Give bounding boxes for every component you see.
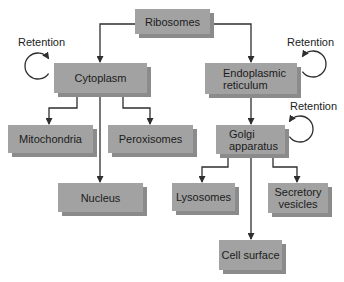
retention-loop-golgi-icon (289, 116, 313, 142)
node-label: Peroxisomes (119, 133, 183, 145)
arrow-ribosomes-to-cytoplasm (100, 24, 135, 62)
arrow-ribosomes-to-er (213, 24, 251, 62)
arrow-golgi-to-lysosomes (202, 157, 228, 182)
node-label: Lysosomes (176, 191, 231, 203)
retention-label-er: Retention (287, 36, 334, 48)
node-golgi-apparatus: Golgi apparatus (216, 125, 285, 154)
node-label: Ribosomes (145, 16, 200, 28)
node-label: Mitochondria (19, 133, 82, 145)
node-label: Secretory vesicles (274, 186, 321, 210)
node-nucleus: Nucleus (58, 183, 143, 212)
arrow-cytoplasm-to-mitochondria (49, 96, 77, 124)
node-cytoplasm: Cytoplasm (54, 63, 147, 93)
node-lysosomes: Lysosomes (172, 183, 235, 211)
node-cell-surface: Cell surface (219, 240, 282, 270)
node-label: Endoplasmic reticulum (223, 67, 286, 91)
retention-label-cytoplasm: Retention (18, 36, 65, 48)
arrow-cytoplasm-to-peroxisomes (123, 96, 150, 124)
retention-loop-cytoplasm-icon (25, 53, 49, 79)
node-ribosomes: Ribosomes (135, 9, 210, 34)
retention-label-golgi: Retention (290, 100, 337, 112)
node-label: Nucleus (81, 192, 121, 204)
node-peroxisomes: Peroxisomes (108, 125, 193, 153)
retention-loop-er-icon (302, 51, 326, 77)
arrow-golgi-to-secretory-vesicles (273, 157, 297, 182)
protein-sorting-diagram: Ribosomes Cytoplasm Endoplasmic reticulu… (0, 0, 344, 282)
node-endoplasmic-reticulum: Endoplasmic reticulum (205, 63, 297, 94)
node-label: Cell surface (221, 249, 279, 261)
node-label: Cytoplasm (75, 72, 127, 84)
node-mitochondria: Mitochondria (8, 125, 93, 153)
node-secretory-vesicles: Secretory vesicles (268, 183, 328, 213)
node-label: Golgi apparatus (229, 128, 278, 152)
